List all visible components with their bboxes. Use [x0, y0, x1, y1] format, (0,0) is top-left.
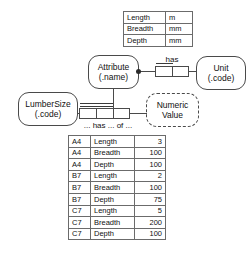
cell-size: B7 — [69, 193, 91, 205]
value-type-numeric-value[interactable]: Numeric Value — [146, 93, 199, 127]
cell-unit: mm — [166, 23, 193, 35]
connector-attribute-ternary — [113, 89, 114, 108]
cell-attribute: Length — [91, 136, 135, 148]
entity-unit-refmode: (.code) — [208, 73, 234, 83]
cell-size: B7 — [69, 182, 91, 194]
cell-size: B7 — [69, 170, 91, 182]
value-type-numeric-value-line1: Numeric — [157, 100, 189, 110]
connector-attribute-has — [139, 71, 156, 72]
table-row: A4 Length 3 — [69, 136, 166, 148]
entity-lumbersize-refmode: (.code) — [35, 109, 61, 119]
value-type-numeric-value-line2: Value — [162, 110, 183, 120]
table-row: B7 Breadth 100 — [69, 182, 166, 194]
mandatory-role-dot — [136, 69, 141, 74]
cell-attribute: Depth — [91, 228, 135, 240]
cell-attribute: Breadth — [91, 217, 135, 229]
cell-attribute: Length — [124, 12, 166, 24]
cell-attribute: Depth — [91, 193, 135, 205]
entity-unit[interactable]: Unit (.code) — [196, 56, 246, 90]
cell-attribute: Length — [91, 170, 135, 182]
cell-attribute: Breadth — [124, 23, 166, 35]
cell-value: 100 — [135, 228, 166, 240]
cell-unit: mm — [166, 35, 193, 47]
table-row: B7 Depth 75 — [69, 193, 166, 205]
cell-value: 75 — [135, 193, 166, 205]
entity-lumbersize[interactable]: LumberSize (.code) — [18, 92, 78, 126]
cell-size: C7 — [69, 217, 91, 229]
connector-has-unit — [189, 71, 197, 72]
orm-diagram-canvas: Length m Breadth mm Depth mm Attribute (… — [0, 0, 251, 263]
cell-attribute: Breadth — [91, 147, 135, 159]
connector-lumbersize-ternary — [78, 113, 80, 114]
table-row: A4 Depth 100 — [69, 159, 166, 171]
entity-attribute-refmode: (.name) — [99, 72, 128, 82]
predicate-ternary[interactable] — [79, 108, 130, 119]
cell-attribute: Breadth — [91, 182, 135, 194]
cell-value: 100 — [135, 147, 166, 159]
cell-value: 5 — [135, 205, 166, 217]
cell-attribute: Length — [91, 205, 135, 217]
cell-size: A4 — [69, 147, 91, 159]
predicate-has[interactable] — [155, 66, 189, 77]
cell-value: 100 — [135, 159, 166, 171]
role-box[interactable] — [172, 66, 189, 77]
entity-lumbersize-name: LumberSize — [25, 99, 70, 109]
cell-attribute: Depth — [91, 159, 135, 171]
table-row: B7 Length 2 — [69, 170, 166, 182]
table-row: Breadth mm — [124, 23, 193, 35]
cell-size: C7 — [69, 228, 91, 240]
uniqueness-constraint-ternary — [80, 103, 114, 104]
entity-attribute-name: Attribute — [98, 62, 130, 72]
table-row: Depth mm — [124, 35, 193, 47]
connector-ternary-numeric-value — [130, 113, 147, 114]
cell-value: 2 — [135, 170, 166, 182]
table-row: C7 Length 5 — [69, 205, 166, 217]
cell-size: A4 — [69, 136, 91, 148]
cell-size: C7 — [69, 205, 91, 217]
table-row: C7 Depth 100 — [69, 228, 166, 240]
cell-value: 200 — [135, 217, 166, 229]
cell-size: A4 — [69, 159, 91, 171]
cell-unit: m — [166, 12, 193, 24]
entity-unit-name: Unit — [213, 63, 228, 73]
unit-sample-table: Length m Breadth mm Depth mm — [123, 11, 193, 47]
cell-value: 100 — [135, 182, 166, 194]
table-row: C7 Breadth 200 — [69, 217, 166, 229]
predicate-ternary-reading: ... has ... of ... — [72, 121, 144, 130]
table-row: A4 Breadth 100 — [69, 147, 166, 159]
role-box[interactable] — [155, 66, 172, 77]
role-box[interactable] — [96, 108, 113, 119]
uniqueness-constraint-has — [156, 63, 173, 64]
role-box[interactable] — [79, 108, 96, 119]
table-row: Length m — [124, 12, 193, 24]
population-sample-table: A4 Length 3 A4 Breadth 100 A4 Depth 100 … — [68, 135, 166, 240]
cell-value: 3 — [135, 136, 166, 148]
entity-attribute[interactable]: Attribute (.name) — [88, 55, 139, 89]
cell-attribute: Depth — [124, 35, 166, 47]
role-box[interactable] — [113, 108, 130, 119]
